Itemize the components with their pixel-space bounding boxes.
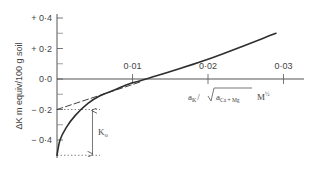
y-axis-label: ΔK m equiv/100 g soil bbox=[14, 42, 24, 129]
y-tick-label: − 0·4 bbox=[31, 135, 52, 145]
x-tick-label: 0·03 bbox=[274, 61, 292, 71]
svg-text:aK/: aK/ bbox=[188, 92, 200, 103]
x-tick-label: 0·02 bbox=[199, 61, 217, 71]
y-tick-label: 0·0 bbox=[39, 74, 52, 84]
series bbox=[57, 33, 276, 155]
y-tick-label: + 0·2 bbox=[31, 44, 52, 54]
x-ticks: 0·010·020·03 bbox=[123, 61, 292, 84]
chart: + 0·4+ 0·20·0− 0·2− 0·4 0·010·020·03 Ko … bbox=[0, 0, 314, 172]
svg-text:M½: M½ bbox=[257, 91, 270, 102]
y-tick-label: − 0·2 bbox=[31, 105, 52, 115]
svg-text:aCa + Mg: aCa + Mg bbox=[216, 92, 240, 103]
y-tick-label: + 0·4 bbox=[31, 13, 52, 23]
qi-curve bbox=[57, 33, 276, 155]
y-ticks: + 0·4+ 0·20·0− 0·2− 0·4 bbox=[31, 13, 63, 145]
x-tick-label: 0·01 bbox=[123, 61, 141, 71]
x-axis-label: aK/ aCa + Mg M½ bbox=[188, 88, 270, 103]
ko-label: Ko bbox=[98, 127, 108, 138]
